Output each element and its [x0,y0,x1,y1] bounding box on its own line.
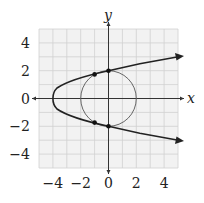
x-tick-label: 0 [104,175,113,191]
x-axis-left-arrow-icon [32,97,36,101]
point-neg1-sqrt3 [92,72,97,77]
x-tick-label: −2 [70,175,91,191]
y-axis-label: y [103,7,113,23]
point-0-neg2 [106,124,111,129]
y-tick-label: −2 [9,118,30,134]
y-tick-label: 4 [21,35,30,51]
x-axis-arrow-icon [180,97,184,101]
point-neg1-negsqrt3 [92,120,97,125]
point-0-2 [106,68,111,73]
y-tick-label: 2 [21,63,30,79]
x-axis-label: x [187,90,195,106]
parabola-upper-arrow-icon [175,53,184,61]
y-axis-down-arrow-icon [107,170,111,174]
x-tick-label: 2 [132,175,141,191]
x-tick-label: −4 [43,175,64,191]
x-tick-label: 4 [160,175,169,191]
y-tick-label: 0 [21,91,30,107]
y-tick-label: −4 [9,146,30,162]
parabola-lower-arrow-icon [175,137,184,145]
graph: y x −4 −2 0 2 4 4 2 0 −2 −4 [0,0,204,203]
